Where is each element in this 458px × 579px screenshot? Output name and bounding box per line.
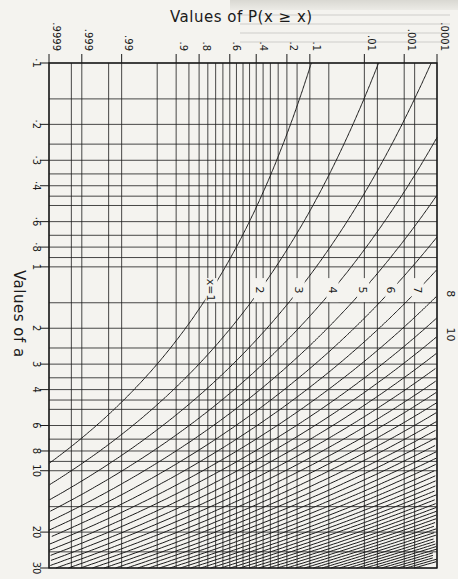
y-tick-label: 4 xyxy=(31,386,42,392)
curve-x-49 xyxy=(406,559,437,568)
y-tick-label: 2 xyxy=(31,325,42,331)
y-tick-label: ·3 xyxy=(31,155,42,165)
x-tick-label: .01 xyxy=(366,35,377,51)
curve-x-2 xyxy=(50,63,379,485)
x-tick-label: .9999 xyxy=(51,22,62,51)
y-tick-label: 30 xyxy=(31,562,42,575)
x-tick-label: .999 xyxy=(83,29,94,51)
curve-label: 7 xyxy=(411,287,424,294)
curve-label: 2 xyxy=(253,287,266,294)
curve-x-7 xyxy=(52,270,437,536)
x-tick-label: .99 xyxy=(123,35,134,51)
x-tick-label: .6 xyxy=(231,41,242,51)
curve-label: 3 xyxy=(292,287,305,294)
curve-label: 4 xyxy=(326,287,339,294)
y-tick-label: ·1 xyxy=(31,58,42,68)
y-tick-label: ·2 xyxy=(31,120,42,130)
x-tick-label: .1 xyxy=(311,41,322,51)
y-tick-label: 8 xyxy=(31,448,42,454)
curve-label: 6 xyxy=(384,287,397,294)
y-axis-ticks: ·1·2·3·4·6·8123468102030 xyxy=(31,58,49,574)
x-axis-ticks: .9999.999.99.9.8.6.4.2.1.01.001.0001 xyxy=(49,22,450,63)
y-tick-label: 10 xyxy=(31,464,42,477)
curve-label-edge: 8 xyxy=(444,290,457,297)
x-tick-label: .8 xyxy=(201,41,212,51)
y-tick-label: 3 xyxy=(31,361,42,367)
x-tick-label: .2 xyxy=(288,41,299,51)
curve-x-29 xyxy=(230,495,436,568)
curve-label: x=1 xyxy=(204,279,217,302)
curve-x-3 xyxy=(49,63,431,500)
y-tick-label: 6 xyxy=(31,422,42,428)
y-tick-label: 20 xyxy=(31,526,42,539)
y-tick-label: ·8 xyxy=(31,242,42,252)
curve-x-21 xyxy=(149,452,436,568)
curve-labels: x=1234567810 xyxy=(204,278,457,341)
x-tick-label: .001 xyxy=(406,29,417,51)
x-tick-label: .9 xyxy=(178,41,189,51)
nomogram-chart: .9999.999.99.9.8.6.4.2.1.01.001.0001·1·2… xyxy=(0,0,458,579)
x-tick-label: .4 xyxy=(258,41,269,51)
y-tick-label: ·4 xyxy=(31,181,42,191)
curve-label: 5 xyxy=(356,287,369,294)
x-tick-label: .0001 xyxy=(439,22,450,51)
y-tick-label: ·6 xyxy=(31,217,42,227)
curve-label-edge: 10 xyxy=(444,328,457,342)
y-tick-label: 1 xyxy=(31,264,42,270)
curve-x-1 xyxy=(49,63,311,463)
